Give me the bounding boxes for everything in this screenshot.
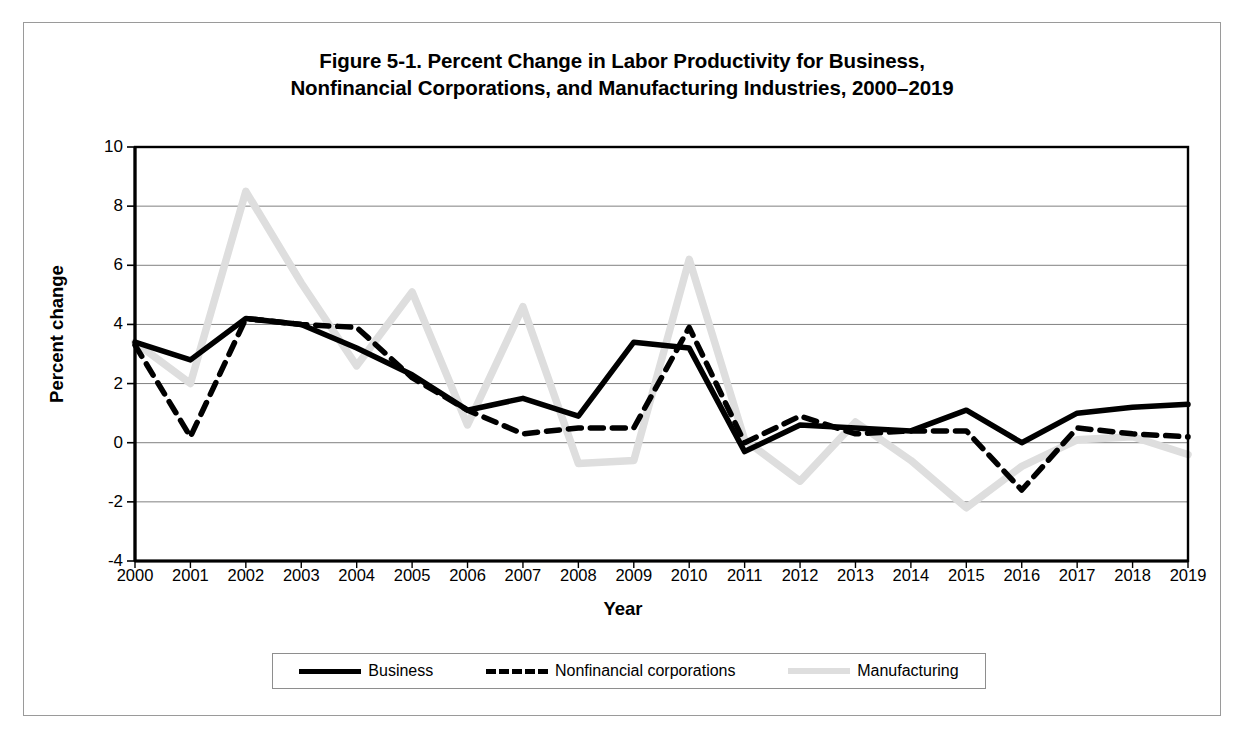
series-line <box>135 191 1188 507</box>
y-tick-label: 8 <box>79 196 123 216</box>
legend-label: Manufacturing <box>857 662 958 680</box>
x-tick-label: 2010 <box>671 566 708 585</box>
legend-label: Nonfinancial corporations <box>555 662 736 680</box>
y-tick-label: -2 <box>79 492 123 512</box>
data-series-layer <box>135 191 1188 507</box>
x-tick-label: 2017 <box>1059 566 1096 585</box>
x-tick-label: 2004 <box>338 566 375 585</box>
legend-item[interactable]: Nonfinancial corporations <box>486 662 736 680</box>
x-axis-tick-labels: 2000200120022003200420052006200720082009… <box>135 566 1188 592</box>
x-tick-label: 2012 <box>782 566 819 585</box>
legend-item[interactable]: Manufacturing <box>788 662 958 680</box>
x-tick-label: 2003 <box>283 566 320 585</box>
y-tick-label: 6 <box>79 255 123 275</box>
figure-frame: Figure 5-1. Percent Change in Labor Prod… <box>23 22 1221 716</box>
x-tick-label: 2001 <box>172 566 209 585</box>
x-tick-label: 2006 <box>449 566 486 585</box>
x-axis-title: Year <box>24 598 1222 620</box>
y-tick-label: 10 <box>79 137 123 157</box>
x-tick-label: 2018 <box>1114 566 1151 585</box>
x-tick-label: 2013 <box>837 566 874 585</box>
x-tick-label: 2014 <box>893 566 930 585</box>
legend-swatch-icon <box>788 668 850 674</box>
y-tick-label: 0 <box>79 433 123 453</box>
x-tick-label: 2005 <box>394 566 431 585</box>
x-tick-label: 2015 <box>948 566 985 585</box>
x-tick-label: 2016 <box>1003 566 1040 585</box>
y-tick-label: 2 <box>79 374 123 394</box>
y-axis-title: Percent change <box>46 244 68 424</box>
legend-swatch-icon <box>486 669 548 674</box>
x-tick-label: 2019 <box>1170 566 1207 585</box>
chart-legend: BusinessNonfinancial corporationsManufac… <box>272 653 986 689</box>
series-line <box>135 319 1188 452</box>
x-tick-label: 2011 <box>727 566 762 585</box>
x-tick-label: 2009 <box>615 566 652 585</box>
x-tick-label: 2008 <box>560 566 597 585</box>
x-tick-label: 2007 <box>505 566 542 585</box>
legend-item[interactable]: Business <box>299 662 433 680</box>
plot-area: 1086420-2-4 2000200120022003200420052006… <box>24 23 1222 717</box>
legend-label: Business <box>368 662 433 680</box>
x-tick-label: 2000 <box>117 566 154 585</box>
legend-swatch-icon <box>299 669 361 674</box>
y-tick-label: 4 <box>79 314 123 334</box>
x-tick-label: 2002 <box>227 566 264 585</box>
